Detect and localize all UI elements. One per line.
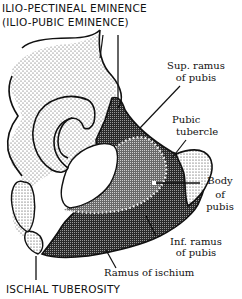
leader-ramus-ischium	[106, 250, 116, 268]
label-ilio-pubic-eminence: (ILIO-PUBIC EMINENCE)	[2, 17, 129, 28]
label-pubic-tubercle-2: tubercle	[176, 127, 218, 137]
label-ilio-pectineal-eminence: ILIO-PECTINEAL EMINENCE	[2, 3, 147, 14]
label-inf-ramus-1: Inf. ramus	[152, 237, 240, 247]
label-ischial-tuberosity: ISCHIAL TUBEROSITY	[6, 284, 120, 295]
label-body-pubis-2: of	[200, 190, 240, 200]
label-pubic-tubercle-1: Pubic	[172, 115, 200, 125]
label-ramus-ischium: Ramus of ischium	[104, 268, 194, 278]
ischial-tuberosity-lobe-lower	[25, 231, 43, 254]
bone-outline-left	[10, 30, 12, 60]
label-body-pubis-3: pubis	[200, 202, 240, 212]
label-body-pubis-1: Body	[200, 176, 240, 186]
body-pubis-marker	[152, 181, 156, 185]
label-inf-ramus-2: of pubis	[152, 248, 240, 258]
label-sup-ramus-2: of pubis	[150, 73, 242, 83]
diagram-canvas: ILIO-PECTINEAL EMINENCE (ILIO-PUBIC EMIN…	[0, 0, 242, 299]
label-sup-ramus-1: Sup. ramus	[150, 61, 242, 71]
leader-ilio-pectineal-left	[100, 35, 103, 58]
